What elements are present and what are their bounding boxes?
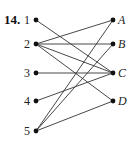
edge-2-A <box>36 20 113 44</box>
edge-5-A <box>36 20 113 131</box>
node-label-B: B <box>118 37 126 51</box>
node-A <box>111 18 116 23</box>
node-label-D: D <box>117 94 127 108</box>
node-label-A: A <box>117 13 126 27</box>
node-3 <box>34 71 39 76</box>
node-label-5: 5 <box>24 124 30 138</box>
edge-2-D <box>36 44 113 101</box>
edge-5-B <box>36 44 113 131</box>
node-4 <box>34 99 39 104</box>
node-label-3: 3 <box>24 66 30 80</box>
node-2 <box>34 42 39 47</box>
node-C <box>111 71 116 76</box>
node-B <box>111 42 116 47</box>
edge-2-C <box>36 44 113 73</box>
problem-number: 14. <box>4 12 20 27</box>
edges <box>36 20 113 131</box>
node-5 <box>34 129 39 134</box>
edge-1-C <box>36 20 113 73</box>
node-label-2: 2 <box>24 37 30 51</box>
node-label-4: 4 <box>24 94 30 108</box>
node-label-1: 1 <box>24 13 30 27</box>
node-label-C: C <box>118 66 127 80</box>
node-1 <box>34 18 39 23</box>
node-D <box>111 99 116 104</box>
edge-5-D <box>36 101 113 131</box>
bipartite-graph: 14. 12345ABCD <box>0 0 136 144</box>
